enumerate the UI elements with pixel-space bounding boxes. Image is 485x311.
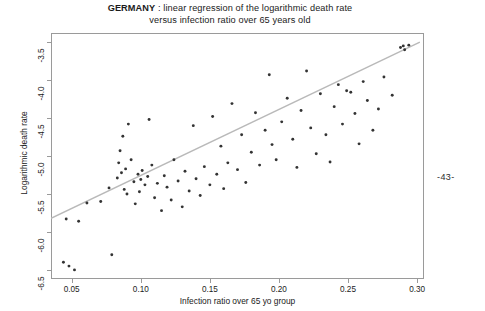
data-point [345,89,348,92]
data-point [124,167,127,170]
x-tick-label: 0.10 [121,285,161,294]
chart-page: GERMANY : linear regression of the logar… [0,0,485,311]
data-point [134,202,137,205]
y-tick-mark [47,156,51,157]
data-point [391,94,394,97]
scatter-points [62,44,410,272]
y-tick-label: -4.0 [37,79,46,109]
data-point [121,135,124,138]
data-point [130,158,133,161]
data-point [137,173,140,176]
x-tick-mark [72,279,73,283]
y-tick-label: -4.5 [37,117,46,147]
data-point [188,189,191,192]
regression-line [51,42,420,218]
data-point [110,253,113,256]
data-point [309,126,312,129]
data-point [264,129,267,132]
data-point [127,123,130,126]
data-point [160,209,163,212]
title-rest: : linear regression of the logarithmic d… [155,3,352,13]
data-point [170,199,173,202]
data-point [116,177,119,180]
data-point [73,268,76,271]
y-tick-label: -5.5 [37,193,46,223]
data-point [219,145,222,148]
data-point [65,218,68,221]
data-point [362,80,365,83]
data-point [402,44,405,47]
data-point [143,183,146,186]
data-point [349,91,352,94]
data-point [319,92,322,95]
x-tick-mark [417,279,418,283]
y-axis-label: Logarithmic death rate [19,83,29,223]
y-tick-mark [47,232,51,233]
data-point [258,164,261,167]
data-point [403,48,406,51]
data-point [329,161,332,164]
y-tick-mark [47,118,51,119]
y-tick-mark [47,80,51,81]
page-number: -43- [437,172,455,182]
data-point [211,115,214,118]
data-point [139,178,142,181]
data-point [377,107,380,110]
data-point [275,158,278,161]
data-point [120,171,123,174]
data-point [295,166,298,169]
x-tick-mark [279,279,280,283]
data-point [153,196,156,199]
data-point [148,118,151,121]
data-point [62,261,65,264]
y-tick-label: -6.0 [37,230,46,260]
data-point [117,161,120,164]
regression-line-path [51,42,420,218]
data-point [407,44,410,47]
data-point [166,186,169,189]
data-point [126,193,129,196]
x-tick-label: 0.20 [259,285,299,294]
data-point [366,99,369,102]
data-point [226,161,229,164]
data-point [192,124,195,127]
data-point [244,181,247,184]
data-point [156,182,159,185]
data-point [268,73,271,76]
x-tick-mark [141,279,142,283]
data-point [353,112,356,115]
data-point [184,170,187,173]
title-country: GERMANY [108,3,156,13]
x-tick-label: 0.30 [397,285,437,294]
data-point [181,205,184,208]
data-point [341,123,344,126]
x-tick-mark [210,279,211,283]
data-point [231,102,234,105]
y-tick-mark [47,194,51,195]
data-point [203,165,206,168]
data-point [254,111,257,114]
data-point [68,265,71,268]
data-point [208,183,211,186]
data-point [337,83,340,86]
y-tick-label: -6.5 [37,268,46,298]
x-tick-label: 0.25 [328,285,368,294]
data-point [236,168,239,171]
data-point [138,190,141,193]
data-point [305,70,308,73]
data-point [358,142,361,145]
data-point [271,143,274,146]
data-point [173,158,176,161]
data-point [371,129,374,132]
x-axis-label: Infection ratio over 65 yo group [51,296,424,306]
data-point [382,76,385,79]
y-tick-label: -3.5 [37,41,46,71]
data-point [108,186,111,189]
data-point [333,105,336,108]
data-point [123,188,126,191]
data-point [99,200,102,203]
x-tick-label: 0.05 [52,285,92,294]
data-point [85,202,88,205]
data-point [77,220,80,223]
x-tick-label: 0.15 [190,285,230,294]
